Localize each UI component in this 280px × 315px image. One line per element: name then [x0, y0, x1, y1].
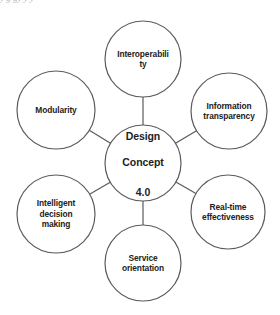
node-label-interoperability: Interoperabili ty	[109, 25, 177, 93]
connector-information-transparency	[176, 131, 197, 144]
node-label-real-time-effectiveness: Real-time effectiveness	[195, 179, 261, 245]
center-node-label: Design Concept 4.0	[108, 129, 178, 199]
center-label-line1: Design	[122, 130, 163, 143]
center-label-line2: Concept	[122, 156, 163, 169]
connector-real-time-effectiveness	[176, 182, 196, 194]
node-label-information-transparency: Information transparency	[195, 77, 263, 145]
center-label-line3: 4.0	[122, 186, 163, 199]
node-label-service-orientation: Service orientation	[109, 229, 177, 297]
node-label-modularity: Modularity	[21, 75, 91, 145]
node-label-intelligent-decision-making: Intelligent decision making	[21, 179, 91, 249]
